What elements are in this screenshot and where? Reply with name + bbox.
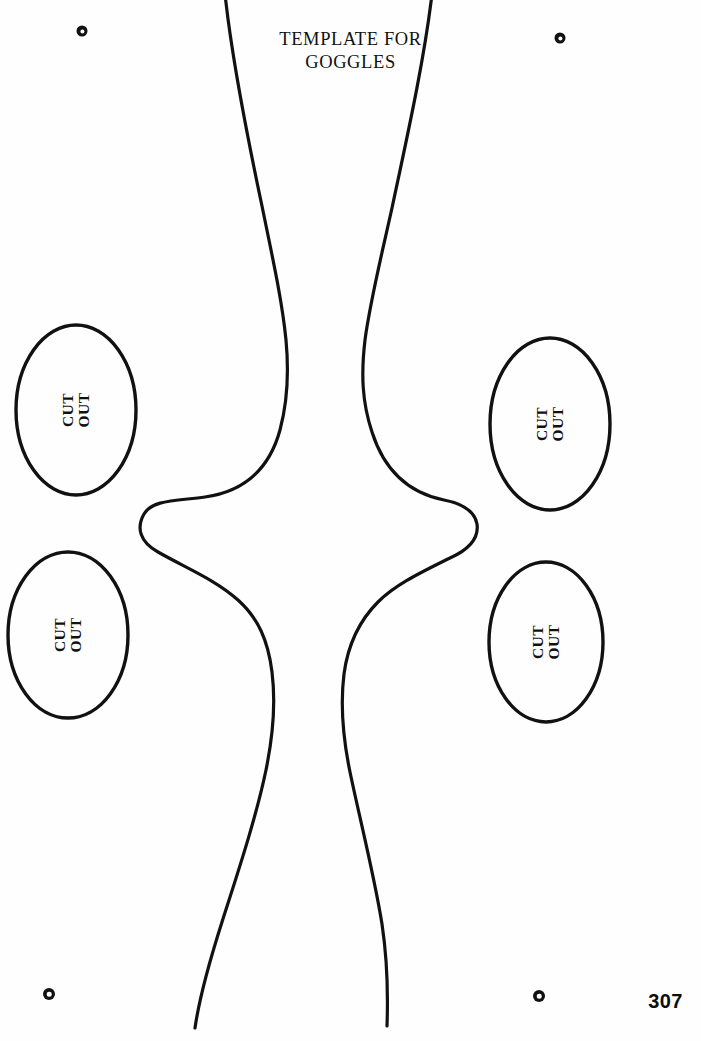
cutout-ellipse-upper-left [16,325,136,495]
page-number: 307 [648,990,683,1013]
goggle-left-outline [140,0,287,1028]
registration-mark-bottom-right [533,990,545,1002]
template-page: TEMPLATE FOR GOGGLES CUTOUTCUTOUTCUTOUTC… [0,0,701,1041]
cutout-ellipse-lower-right [489,562,603,722]
cutout-ellipse-upper-right [490,338,610,510]
registration-mark-top-left [77,26,88,37]
registration-mark-top-right [555,33,566,44]
cutout-ellipse-lower-left [8,552,128,718]
registration-mark-bottom-left [43,988,55,1000]
goggle-right-outline [342,0,477,1026]
goggle-template-artwork [0,0,701,1041]
